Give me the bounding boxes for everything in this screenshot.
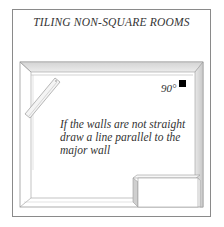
caption-line-2: draw a line parallel to the	[60, 131, 190, 144]
caption-line-1: If the walls are not straight	[60, 118, 190, 131]
black-square-icon	[179, 80, 186, 87]
room-illustration	[0, 0, 224, 227]
angle-label: 90°	[161, 82, 176, 94]
caption-text: If the walls are not straight draw a lin…	[60, 118, 190, 157]
box-obstacle	[133, 175, 200, 207]
caption-line-3: major wall	[60, 144, 190, 157]
